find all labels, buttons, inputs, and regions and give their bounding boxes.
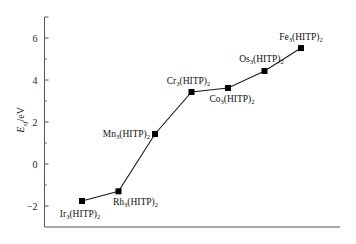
data-point-marker <box>262 68 268 74</box>
data-point-marker <box>116 188 122 194</box>
y-axis-title: Exf/eV <box>15 106 29 133</box>
data-point-marker <box>79 198 85 204</box>
y-title-main: E <box>15 127 26 134</box>
point-label-ir: Ir3(HITP)2 <box>60 209 100 220</box>
point-labels: Ir3(HITP)2Rh3(HITP)2Mn3(HITP)2Cr3(HITP)2… <box>60 32 323 220</box>
data-series <box>79 45 304 204</box>
axes: −20246 <box>27 17 340 227</box>
point-label-mn: Mn3(HITP)2 <box>103 129 150 140</box>
y-tick-label: 6 <box>33 33 38 44</box>
y-tick-label: 4 <box>33 75 38 86</box>
point-label-rh: Rh3(HITP)2 <box>113 197 158 208</box>
data-point-marker <box>189 89 195 95</box>
series-line <box>82 48 301 201</box>
point-label-fe: Fe3(HITP)2 <box>279 32 322 43</box>
y-tick-label: −2 <box>27 201 38 212</box>
point-label-co: Co3(HITP)2 <box>209 94 254 105</box>
y-tick-label: 2 <box>33 117 38 128</box>
point-label-os: Os3(HITP)2 <box>239 54 284 65</box>
data-point-marker <box>225 85 231 91</box>
exfoliation-energy-chart: −20246 Exf/eV Ir3(HITP)2Rh3(HITP)2Mn3(HI… <box>0 0 356 244</box>
y-tick-label: 0 <box>33 159 38 170</box>
data-point-marker <box>152 131 158 137</box>
y-title-unit: /eV <box>15 106 26 121</box>
data-point-marker <box>298 45 304 51</box>
svg-text:Exf/eV: Exf/eV <box>15 106 29 133</box>
point-label-cr: Cr3(HITP)2 <box>167 76 210 87</box>
